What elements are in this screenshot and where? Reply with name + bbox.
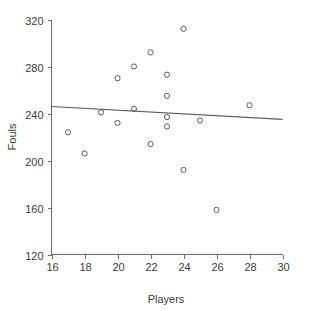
y-tick-label: 320 xyxy=(25,15,43,27)
x-axis-title: Players xyxy=(148,293,185,305)
x-tick-label: 26 xyxy=(211,261,223,273)
x-tick-label: 30 xyxy=(277,261,289,273)
x-tick-label: 28 xyxy=(244,261,256,273)
x-tick-label: 20 xyxy=(112,261,124,273)
x-tick-label: 16 xyxy=(46,261,58,273)
x-tick-label: 24 xyxy=(178,261,190,273)
y-tick-label: 200 xyxy=(25,156,43,168)
y-tick-label: 280 xyxy=(25,62,43,74)
x-tick-label: 22 xyxy=(145,261,157,273)
plot-canvas: 120160200240280320 1618202224262830 Play… xyxy=(0,0,309,311)
y-tick-label: 120 xyxy=(25,250,43,262)
scatter-chart: 120160200240280320 1618202224262830 Play… xyxy=(0,0,309,311)
y-tick-label: 240 xyxy=(25,109,43,121)
y-axis-title: Fouls xyxy=(6,123,18,150)
x-tick-label: 18 xyxy=(79,261,91,273)
y-tick-label: 160 xyxy=(25,203,43,215)
